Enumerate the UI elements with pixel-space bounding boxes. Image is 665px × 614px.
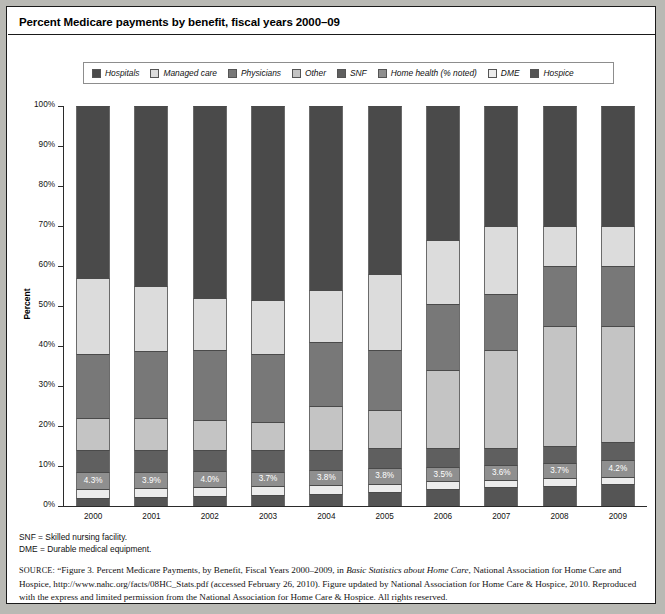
- bar-segment: [309, 450, 343, 470]
- bar-segment: [368, 484, 402, 492]
- bar-segment: [76, 354, 110, 418]
- bar-segment: [368, 492, 402, 506]
- bar-segment: 4.3%: [76, 472, 110, 489]
- y-axis-tick-label: 100%: [34, 100, 55, 109]
- x-axis-tick-label: 2009: [601, 512, 635, 521]
- bar-segment: [76, 278, 110, 354]
- bar-segment: [484, 226, 518, 294]
- bar-segment: [251, 422, 285, 450]
- y-axis-tick: 10%: [58, 466, 63, 467]
- bar-segment: [251, 300, 285, 354]
- y-axis-tick: 0%: [58, 506, 63, 507]
- bar-segment: [193, 350, 227, 420]
- bar-segment: [251, 486, 285, 495]
- bar-segment: [484, 487, 518, 506]
- bar-segment: [484, 448, 518, 465]
- bar-segment: 3.9%: [134, 472, 168, 488]
- bar-segment: [484, 294, 518, 350]
- bar-segment: [484, 480, 518, 488]
- bar-segment: [251, 354, 285, 422]
- bar-segment-value-label: 3.7%: [252, 475, 284, 483]
- bar-segment-value-label: 4.2%: [602, 465, 634, 473]
- bar-segment: [368, 448, 402, 468]
- bar-group: 4.3%20003.9%20014.0%20023.7%20033.8%2004…: [64, 106, 647, 506]
- bar-segment: [543, 266, 577, 326]
- bar-segment: [193, 420, 227, 450]
- x-axis-tick-label: 2008: [543, 512, 577, 521]
- bar-segment: [601, 226, 635, 266]
- y-axis-tick-label: 30%: [39, 380, 55, 389]
- bar-segment: [601, 106, 635, 226]
- bar-segment-value-label: 3.6%: [485, 469, 517, 477]
- bar-segment: [543, 486, 577, 506]
- bar-column: 3.6%: [484, 106, 518, 506]
- x-axis-line: [63, 506, 647, 507]
- x-axis-tick-label: 2006: [426, 512, 460, 521]
- bar-segment: [193, 487, 227, 496]
- footnote-dme: DME = Durable medical equipment.: [19, 543, 151, 555]
- bar-segment: [426, 304, 460, 370]
- y-axis-tick: 50%: [58, 306, 63, 307]
- bar-segment: [76, 498, 110, 506]
- bar-segment: [251, 495, 285, 506]
- source-note: SOURCE: “Figure 3. Percent Medicare Paym…: [19, 564, 647, 605]
- bar-segment: [134, 351, 168, 418]
- bar-segment-value-label: 3.8%: [369, 472, 401, 480]
- source-title-italic: Basic Statistics about Home Care: [346, 565, 468, 575]
- footnotes: SNF = Skilled nursing facility. DME = Du…: [19, 531, 151, 555]
- source-prefix: SOURCE:: [19, 566, 55, 575]
- bar-segment: [76, 489, 110, 498]
- bar-segment: [76, 106, 110, 278]
- bar-segment: [426, 448, 460, 467]
- y-axis-tick: 80%: [58, 186, 63, 187]
- bar-segment: [193, 496, 227, 506]
- figure-page: Percent Medicare payments by benefit, fi…: [0, 0, 665, 614]
- axis-area: 100%90%80%70%60%50%40%30%20%10%0% 4.3%20…: [63, 106, 647, 506]
- bar-segment: [368, 106, 402, 274]
- footnote-snf: SNF = Skilled nursing facility.: [19, 531, 151, 543]
- y-axis-tick: 90%: [58, 146, 63, 147]
- bar-segment: [426, 489, 460, 506]
- y-axis-tick: 30%: [58, 386, 63, 387]
- bar-segment: [543, 478, 577, 486]
- bar-column: 3.8%: [309, 106, 343, 506]
- bar-segment: 4.2%: [601, 460, 635, 477]
- bar-segment: [484, 106, 518, 226]
- y-axis-tick-label: 20%: [39, 420, 55, 429]
- x-axis-tick-label: 2003: [251, 512, 285, 521]
- bar-segment: [76, 418, 110, 450]
- bar-segment-value-label: 4.3%: [77, 477, 109, 485]
- x-axis-tick-label: 2007: [484, 512, 518, 521]
- bar-segment: [484, 350, 518, 448]
- bar-segment: [426, 240, 460, 304]
- x-axis-tick-label: 2005: [368, 512, 402, 521]
- source-divider: [19, 559, 645, 560]
- bar-segment: [309, 290, 343, 342]
- bar-segment: [134, 488, 168, 497]
- bar-segment: [368, 350, 402, 410]
- bar-segment-value-label: 3.7%: [544, 467, 576, 475]
- bar-segment: [543, 446, 577, 463]
- y-axis-tick: 60%: [58, 266, 63, 267]
- y-axis-title: Percent: [22, 274, 32, 334]
- bar-segment: [601, 326, 635, 442]
- y-axis-tick: 20%: [58, 426, 63, 427]
- y-axis-tick: 70%: [58, 226, 63, 227]
- bar-segment: [251, 106, 285, 300]
- x-axis-tick-label: 2000: [76, 512, 110, 521]
- y-axis-tick-label: 70%: [39, 220, 55, 229]
- bar-segment: 3.7%: [251, 472, 285, 487]
- bar-segment: 3.8%: [368, 468, 402, 483]
- bar-segment-value-label: 3.8%: [310, 474, 342, 482]
- bar-column: 4.0%: [193, 106, 227, 506]
- bar-segment: [368, 410, 402, 448]
- bar-column: 3.9%: [134, 106, 168, 506]
- bar-segment: [426, 481, 460, 489]
- bar-segment: [601, 484, 635, 506]
- bar-column: 3.7%: [251, 106, 285, 506]
- y-axis-tick-label: 90%: [39, 140, 55, 149]
- bar-column: 3.8%: [368, 106, 402, 506]
- bar-segment: [134, 450, 168, 472]
- y-axis-tick-label: 50%: [39, 300, 55, 309]
- bar-segment: [601, 442, 635, 460]
